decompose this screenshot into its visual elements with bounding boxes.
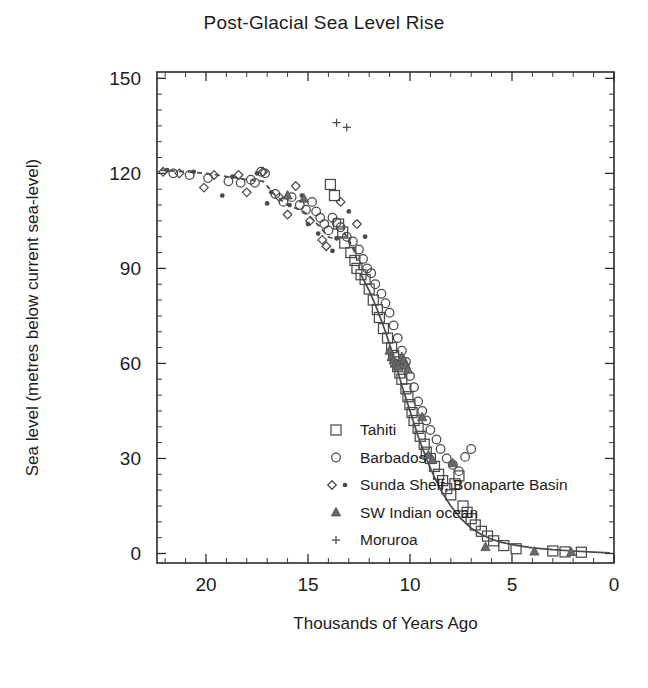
data-point xyxy=(353,220,362,229)
data-point xyxy=(191,169,196,174)
data-point xyxy=(385,308,394,317)
data-point xyxy=(165,168,170,173)
data-point xyxy=(316,213,325,222)
data-point xyxy=(343,123,351,131)
legend-layer: TahitiBarbadosSunda Shelf, Bonaparte Bas… xyxy=(328,421,568,548)
data-point xyxy=(389,321,398,330)
data-point xyxy=(432,435,441,444)
data-point xyxy=(381,299,390,308)
data-point xyxy=(461,453,470,462)
legend-marker xyxy=(331,425,341,435)
x-tick-label: 0 xyxy=(609,574,620,595)
data-point xyxy=(330,249,335,254)
chart-root: Post-Glacial Sea Level Rise 201510500306… xyxy=(0,0,648,688)
legend-label: Sunda Shelf, Bonaparte Basin xyxy=(360,476,568,493)
data-point xyxy=(306,222,311,227)
data-point xyxy=(377,289,386,298)
data-point xyxy=(363,234,368,239)
x-tick-label: 15 xyxy=(297,574,318,595)
data-point xyxy=(467,445,476,454)
y-tick-label: 150 xyxy=(109,68,141,89)
x-tick-label: 10 xyxy=(399,574,420,595)
data-point xyxy=(320,220,329,229)
model-curve-layer xyxy=(161,170,610,553)
data-point xyxy=(325,179,335,189)
data-point xyxy=(283,190,292,199)
legend-item-barbados[interactable]: Barbados xyxy=(332,449,427,466)
legend-item-sunda-shelf-bonaparte-basin[interactable]: Sunda Shelf, Bonaparte Basin xyxy=(328,476,568,493)
data-point xyxy=(242,188,251,197)
data-point xyxy=(333,119,341,127)
data-point xyxy=(287,203,292,208)
legend-item-moruroa[interactable]: Moruroa xyxy=(332,531,418,548)
data-point xyxy=(316,231,321,236)
legend-label: Moruroa xyxy=(360,531,418,548)
data-point xyxy=(436,445,445,454)
legend-label: SW Indian ocean xyxy=(360,504,478,521)
data-point xyxy=(312,207,321,216)
legend-label: Tahiti xyxy=(360,421,396,438)
data-point xyxy=(308,198,317,207)
legend-marker xyxy=(332,536,340,544)
legend-label: Barbados xyxy=(360,449,427,466)
data-point xyxy=(291,182,300,191)
y-axis-label: Sea level (metres below current sea-leve… xyxy=(23,159,42,476)
y-tick-label: 120 xyxy=(109,163,141,184)
legend-marker xyxy=(328,481,337,490)
model-curve-dashed xyxy=(161,170,361,275)
series-moruroa xyxy=(333,119,351,132)
data-point xyxy=(220,193,225,198)
y-tick-label: 0 xyxy=(130,543,141,564)
data-point xyxy=(346,209,351,214)
sea-level-rise-plot: 201510500306090120150 Thousands of Years… xyxy=(0,0,648,688)
data-point xyxy=(200,183,209,192)
series-barbados xyxy=(169,167,475,475)
x-tick-label: 20 xyxy=(195,574,216,595)
data-point xyxy=(236,179,245,188)
legend-marker xyxy=(331,507,340,516)
series-sunda-shelf-bonaparte-basin xyxy=(159,167,368,253)
data-point xyxy=(269,190,274,195)
x-tick-label: 5 xyxy=(507,574,518,595)
data-point xyxy=(283,210,292,219)
y-tick-label: 90 xyxy=(120,258,141,279)
legend-item-sw-indian-ocean[interactable]: SW Indian ocean xyxy=(331,504,478,521)
y-tick-label: 60 xyxy=(120,353,141,374)
data-point xyxy=(336,198,345,207)
legend-item-tahiti[interactable]: Tahiti xyxy=(331,421,396,438)
data-point xyxy=(548,546,558,556)
data-point xyxy=(393,334,402,343)
data-point xyxy=(426,426,435,435)
legend-marker-secondary xyxy=(343,483,348,488)
x-axis-label: Thousands of Years Ago xyxy=(293,614,477,633)
legend-marker xyxy=(332,453,341,462)
y-tick-label: 30 xyxy=(120,448,141,469)
data-point xyxy=(329,191,339,201)
data-point xyxy=(265,201,270,206)
data-point xyxy=(334,236,339,241)
data-point xyxy=(204,174,213,183)
data-point xyxy=(324,226,333,235)
series-sw-indian-ocean xyxy=(283,190,576,555)
